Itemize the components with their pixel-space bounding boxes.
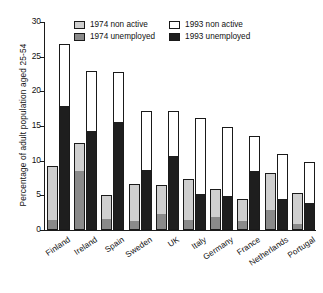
y-tick-label: 25: [32, 52, 41, 61]
y-tick-label: 10: [32, 156, 41, 165]
y-tick-label: 5: [36, 190, 41, 199]
legend-item-1974-unemployed: 1974 unemployed: [74, 32, 155, 41]
legend-item-1993-non-active: 1993 non active: [169, 20, 250, 29]
segment-1974-non-active: [184, 180, 193, 222]
segment-1974-non-active: [102, 196, 111, 220]
segment-1993-non-active: [114, 73, 123, 124]
bar-1974-finland: [47, 166, 58, 230]
segment-1974-non-active: [157, 186, 166, 217]
bar-1974-spain: [101, 195, 112, 230]
legend-label: 1993 unemployed: [185, 32, 250, 41]
segment-1974-non-active: [211, 190, 220, 219]
segment-1993-unemployed: [250, 171, 259, 229]
segment-1974-non-active: [238, 200, 247, 224]
legend-label: 1993 non active: [185, 20, 243, 29]
y-tick-label: 20: [32, 86, 41, 95]
bar-1993-ireland: [86, 71, 97, 230]
segment-1993-non-active: [60, 45, 69, 107]
segment-1993-unemployed: [305, 203, 314, 229]
legend-swatch-icon: [74, 21, 85, 29]
x-label-portugal: Portugal: [264, 235, 317, 275]
segment-1974-unemployed: [238, 221, 247, 229]
bar-1993-germany: [222, 127, 233, 230]
bar-1974-france: [237, 199, 248, 230]
y-axis-title: Percentage of adult population aged 25-5…: [18, 25, 28, 225]
legend-label: 1974 non active: [90, 20, 148, 29]
segment-1974-unemployed: [211, 217, 220, 229]
segment-1974-unemployed: [102, 219, 111, 229]
segment-1974-non-active: [75, 144, 84, 172]
legend-item-1974-non-active: 1974 non active: [74, 20, 155, 29]
x-axis-line: [44, 230, 316, 231]
segment-1993-unemployed: [142, 170, 151, 229]
segment-1974-unemployed: [75, 171, 84, 229]
segment-1974-non-active: [266, 174, 275, 211]
y-tick-label: 15: [32, 121, 41, 130]
bar-1993-italy: [195, 118, 206, 230]
segment-1974-unemployed: [130, 221, 139, 229]
segment-1974-unemployed: [266, 210, 275, 229]
segment-1993-non-active: [142, 112, 151, 172]
segment-1974-non-active: [293, 194, 302, 227]
y-tick-label: 30: [32, 17, 41, 26]
bar-1993-netherlands: [277, 154, 288, 230]
bar-1993-uk: [168, 111, 179, 230]
bar-chart: Percentage of adult population aged 25-5…: [0, 0, 323, 293]
plot-area: 051015202530 FinlandIrelandSpainSwedenUK…: [44, 22, 316, 230]
legend-label: 1974 unemployed: [90, 32, 155, 41]
bar-1974-portugal: [292, 193, 303, 230]
bar-1993-finland: [59, 44, 70, 230]
segment-1993-unemployed: [114, 122, 123, 229]
bar-1993-portugal: [304, 162, 315, 230]
legend-swatch-icon: [169, 33, 180, 41]
chart-legend: 1974 non active1993 non active1974 unemp…: [74, 20, 250, 41]
segment-1974-non-active: [130, 185, 139, 223]
segment-1993-non-active: [250, 137, 259, 172]
bar-1993-spain: [113, 72, 124, 230]
segment-1993-unemployed: [223, 196, 232, 229]
segment-1993-unemployed: [196, 194, 205, 229]
segment-1974-unemployed: [157, 214, 166, 229]
segment-1974-unemployed: [184, 220, 193, 229]
segment-1993-unemployed: [60, 106, 69, 229]
legend-swatch-icon: [74, 33, 85, 41]
bar-1974-germany: [210, 189, 221, 230]
segment-1993-non-active: [223, 128, 232, 198]
y-axis-line: [44, 22, 45, 231]
legend-item-1993-unemployed: 1993 unemployed: [169, 32, 250, 41]
segment-1974-unemployed: [48, 220, 57, 229]
segment-1974-unemployed: [293, 224, 302, 229]
segment-1993-unemployed: [278, 199, 287, 230]
segment-1993-non-active: [87, 72, 96, 133]
bar-1974-uk: [156, 185, 167, 230]
bar-1974-sweden: [129, 184, 140, 230]
bar-1974-ireland: [74, 143, 85, 230]
bar-1993-sweden: [141, 111, 152, 230]
bar-1993-france: [249, 136, 260, 230]
y-tick-label: 0: [36, 225, 41, 234]
bar-1974-netherlands: [265, 173, 276, 230]
segment-1993-unemployed: [169, 156, 178, 229]
legend-swatch-icon: [169, 21, 180, 29]
segment-1993-non-active: [305, 163, 314, 205]
segment-1974-non-active: [48, 167, 57, 222]
bar-1974-italy: [183, 179, 194, 230]
segment-1993-non-active: [169, 112, 178, 158]
segment-1993-non-active: [196, 119, 205, 196]
segment-1993-unemployed: [87, 131, 96, 229]
segment-1993-non-active: [278, 155, 287, 200]
